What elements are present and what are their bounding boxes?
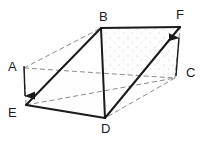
vertex-label-D: D [101,122,110,135]
vertex-label-F: F [176,8,184,21]
arrow-A-down [24,66,25,96]
vertex-label-E: E [8,106,17,119]
vertex-label-B: B [99,10,108,23]
vertex-label-C: C [186,66,195,79]
edge-B-F [101,27,180,28]
vertex-label-A: A [8,60,17,73]
geometry-figure: A B C D E F [0,0,205,141]
